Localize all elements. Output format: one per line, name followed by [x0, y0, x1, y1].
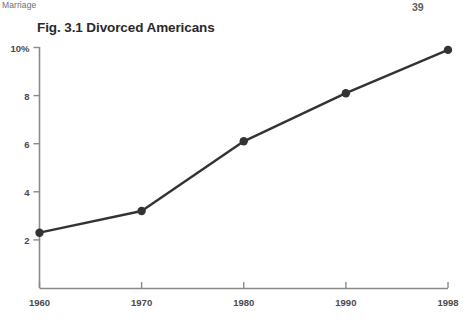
data-point-marker	[342, 89, 350, 97]
y-axis-tick-label: 4	[0, 186, 30, 197]
y-axis-tick-label: 10%	[0, 42, 30, 53]
data-point-marker	[444, 46, 452, 54]
y-axis	[34, 47, 40, 288]
y-axis-tick-label: 2	[0, 234, 30, 245]
x-axis-tick-label: 1960	[29, 297, 50, 308]
x-axis-tick-label: 1980	[233, 297, 254, 308]
line-chart-svg	[0, 0, 468, 329]
chart-page: Marriage 39 Fig. 3.1 Divorced Americans …	[0, 0, 468, 329]
y-axis-tick-label: 6	[0, 138, 30, 149]
plot-area: 10%8642 19601970198019901998	[0, 0, 468, 329]
x-axis	[40, 282, 449, 289]
x-axis-tick-label: 1990	[335, 297, 356, 308]
x-axis-ticks	[40, 282, 449, 288]
x-axis-tick-label: 1970	[131, 297, 152, 308]
y-axis-ticks	[34, 48, 40, 240]
data-point-marker	[240, 137, 248, 145]
data-point-marker	[35, 228, 43, 236]
data-point-marker	[137, 207, 145, 215]
x-axis-tick-label: 1998	[437, 297, 458, 308]
y-axis-tick-label: 8	[0, 90, 30, 101]
